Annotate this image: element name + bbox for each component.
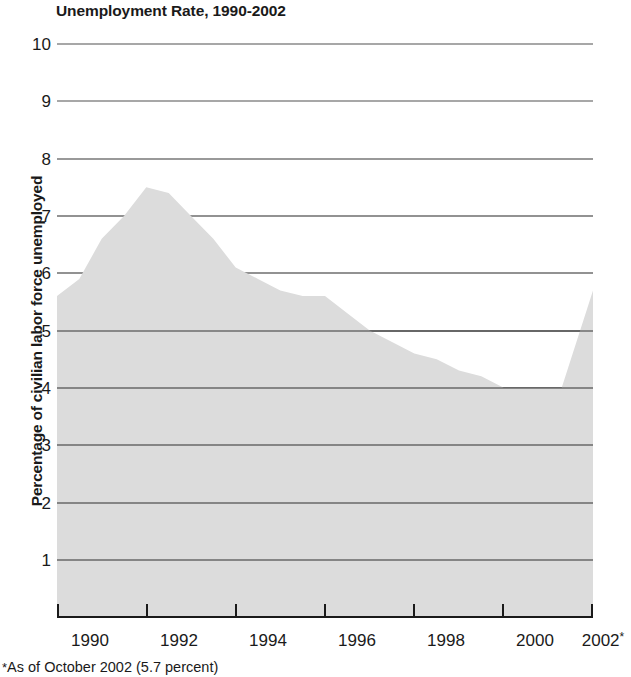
x-tick-label-2002: 2002* [582, 632, 625, 649]
unemployment-area-series [57, 187, 593, 617]
area-chart-svg [57, 36, 593, 626]
footnote-text: As of October 2002 (5.7 percent) [7, 659, 218, 675]
y-tick-label-1: 1 [23, 552, 51, 569]
x-tick-label-1994: 1994 [249, 632, 287, 649]
y-tick-label-3: 3 [23, 437, 51, 454]
footnote-marker: * [2, 660, 7, 675]
y-axis-tick-labels: 10 9 8 7 6 5 4 3 2 1 [21, 0, 51, 677]
x-tick-label-2002-text: 2002 [582, 631, 620, 650]
page-title: Unemployment Rate, 1990-2002 [56, 2, 286, 20]
y-tick-label-9: 9 [23, 93, 51, 110]
x-axis-tick-labels: 1990 1992 1994 1996 1998 2000 2002* [0, 632, 631, 658]
x-tick-label-1996: 1996 [338, 632, 376, 649]
y-tick-label-6: 6 [23, 265, 51, 282]
x-tick-label-2000: 2000 [516, 632, 554, 649]
x-tick-label-1990: 1990 [71, 632, 109, 649]
y-tick-label-5: 5 [23, 323, 51, 340]
y-tick-label-4: 4 [23, 380, 51, 397]
y-tick-label-2: 2 [23, 495, 51, 512]
x-tick-footnote-marker: * [620, 630, 625, 644]
y-tick-label-7: 7 [23, 208, 51, 225]
y-tick-label-8: 8 [23, 151, 51, 168]
chart-plot-area [57, 36, 593, 626]
chart-footnote: *As of October 2002 (5.7 percent) [2, 659, 218, 675]
x-tick-label-1998: 1998 [427, 632, 465, 649]
x-tick-label-1992: 1992 [160, 632, 198, 649]
y-tick-label-10: 10 [23, 36, 51, 53]
